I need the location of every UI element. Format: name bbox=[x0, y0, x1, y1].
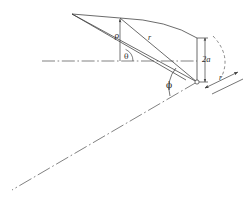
apex-top-edge bbox=[72, 14, 120, 18]
r-chord-label: r bbox=[148, 33, 152, 42]
trailing-edge bbox=[120, 18, 197, 82]
phi-label: ϕ bbox=[166, 80, 172, 90]
lower-sweep-edge bbox=[72, 14, 186, 80]
figure-container: ρ θ r 2a ϕ r bbox=[0, 0, 248, 204]
r-edge-guide-line bbox=[212, 79, 243, 94]
origin-point-marker bbox=[195, 80, 199, 84]
rho-label: ρ bbox=[115, 31, 120, 40]
theta-label: θ bbox=[124, 52, 129, 61]
diagram-canvas: ρ θ r 2a ϕ r bbox=[0, 0, 248, 204]
oblique-centerline bbox=[12, 82, 197, 190]
outer-dashed-arc bbox=[213, 36, 225, 78]
two-a-label: 2a bbox=[202, 54, 211, 64]
leading-edge bbox=[72, 14, 197, 82]
